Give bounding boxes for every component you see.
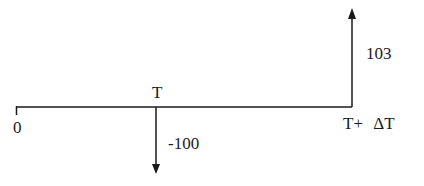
inflow-amount: 103 (366, 45, 392, 62)
time-label-end: T+ ΔT (343, 115, 395, 132)
time-label-start: 0 (13, 119, 22, 136)
cash-flow-diagram (0, 0, 424, 186)
outflow-arrow-icon (152, 107, 160, 174)
outflow-amount: -100 (168, 135, 199, 152)
inflow-arrow-icon (348, 8, 356, 107)
time-label-mid: T (152, 84, 162, 101)
